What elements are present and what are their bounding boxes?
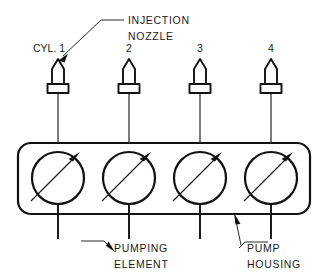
pumping-element-1	[31, 152, 84, 204]
injection-nozzle-2	[119, 59, 140, 144]
label-cylinder-3: 3	[197, 42, 203, 54]
injection-nozzle-3	[190, 59, 211, 144]
diagram-canvas: INJECTION NOZZLE CYL. 1 2 3 4 PUMPING EL…	[0, 0, 328, 279]
injection-nozzle-4	[261, 59, 282, 144]
pumping-element-4	[244, 152, 297, 204]
label-injection-nozzle-line2: NOZZLE	[128, 30, 174, 42]
injection-nozzle-leader	[59, 20, 125, 63]
label-cylinder-1: CYL. 1	[33, 42, 65, 54]
pumping-element-3	[173, 152, 226, 204]
fuel-injection-pump-diagram: INJECTION NOZZLE CYL. 1 2 3 4 PUMPING EL…	[0, 0, 328, 279]
injection-nozzle-1	[48, 59, 69, 144]
label-pumping-element-line1: PUMPING	[114, 242, 168, 254]
pumping-element-leader	[81, 241, 115, 252]
label-cylinder-4: 4	[268, 42, 274, 54]
label-pump-housing-line2: HOUSING	[247, 258, 301, 270]
label-pump-housing-line1: PUMP	[247, 242, 280, 254]
pumping-element-2	[102, 152, 155, 204]
label-pumping-element-line2: ELEMENT	[114, 258, 169, 270]
label-injection-nozzle-line1: INJECTION	[128, 14, 190, 26]
label-cylinder-2: 2	[126, 42, 132, 54]
